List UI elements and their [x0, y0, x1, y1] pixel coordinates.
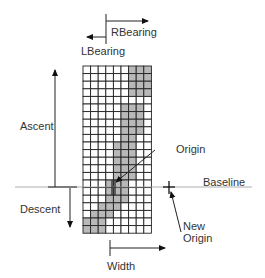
grid-cell-shaded: [113, 150, 121, 158]
grid-cell: [83, 165, 91, 173]
grid-cell: [136, 165, 144, 173]
new-origin-label-line1: New: [183, 220, 205, 232]
grid-cell: [106, 112, 114, 120]
grid-cell: [121, 89, 129, 97]
grid-cell: [144, 104, 152, 112]
grid-cell: [136, 188, 144, 196]
grid-cell: [106, 134, 114, 142]
origin-label: Origin: [176, 143, 205, 155]
grid-cell-shaded: [106, 203, 114, 211]
grid-cell: [113, 134, 121, 142]
grid-cell-shaded: [129, 104, 137, 112]
grid-cell: [144, 119, 152, 127]
ascent-label: Ascent: [20, 120, 54, 132]
grid-cell-shaded: [121, 157, 129, 165]
grid-cell-shaded: [129, 81, 137, 89]
grid-cell-shaded: [121, 112, 129, 120]
grid-cell: [83, 210, 91, 218]
grid-cell: [136, 180, 144, 188]
grid-cell-shaded: [121, 180, 129, 188]
rbearing-label: RBearing: [111, 26, 157, 38]
grid-cell: [106, 81, 114, 89]
grid-cell-shaded: [98, 218, 106, 226]
grid-cell: [83, 172, 91, 180]
grid-cell: [129, 218, 137, 226]
grid-cell-shaded: [91, 210, 99, 218]
grid-cell: [144, 180, 152, 188]
grid-cell: [98, 172, 106, 180]
grid-cell: [98, 89, 106, 97]
grid-cell: [91, 127, 99, 135]
new-origin-label-line2: Origin: [183, 232, 212, 244]
grid-cell: [98, 74, 106, 82]
grid-cell-shaded: [121, 195, 129, 203]
grid-cell-shaded: [113, 157, 121, 165]
grid-cell: [83, 74, 91, 82]
grid-cell: [106, 165, 114, 173]
grid-cell-shaded: [136, 112, 144, 120]
grid-cell: [98, 195, 106, 203]
descent-label: Descent: [20, 203, 60, 215]
grid-cell: [136, 157, 144, 165]
grid-cell: [144, 226, 152, 234]
grid-cell-shaded: [121, 134, 129, 142]
grid-cell: [113, 218, 121, 226]
grid-cell: [136, 195, 144, 203]
grid-cell: [91, 81, 99, 89]
grid-cell: [91, 96, 99, 104]
grid-cell: [91, 180, 99, 188]
grid-cell-shaded: [98, 203, 106, 211]
grid-cell: [83, 119, 91, 127]
grid-cell: [91, 195, 99, 203]
grid-cell: [91, 165, 99, 173]
grid-cell-shaded: [136, 66, 144, 74]
grid-cell-shaded: [136, 119, 144, 127]
grid-cell: [113, 112, 121, 120]
grid-cell: [136, 150, 144, 158]
grid-cell: [83, 112, 91, 120]
grid-cell: [106, 172, 114, 180]
grid-cell: [98, 119, 106, 127]
grid-cell-shaded: [129, 119, 137, 127]
grid-cell: [113, 127, 121, 135]
grid-cell: [113, 96, 121, 104]
grid-cell: [83, 142, 91, 150]
grid-cell: [91, 74, 99, 82]
grid-cell: [113, 81, 121, 89]
grid-cell: [83, 157, 91, 165]
grid-cell: [113, 210, 121, 218]
grid-cell: [136, 142, 144, 150]
grid-cell: [113, 119, 121, 127]
grid-cell-shaded: [136, 74, 144, 82]
grid-cell: [106, 96, 114, 104]
grid-cell: [113, 66, 121, 74]
grid-cell-shaded: [144, 89, 152, 97]
grid-cell-shaded: [113, 195, 121, 203]
grid-cell: [91, 172, 99, 180]
grid-cell: [129, 195, 137, 203]
grid-cell-shaded: [136, 104, 144, 112]
grid-cell-shaded: [129, 157, 137, 165]
grid-cell-shaded: [144, 81, 152, 89]
grid-cell: [91, 104, 99, 112]
grid-cell: [136, 134, 144, 142]
grid-cell: [144, 127, 152, 135]
grid-cell: [83, 127, 91, 135]
grid-cell: [91, 119, 99, 127]
grid-cell: [106, 226, 114, 234]
grid-cell: [91, 203, 99, 211]
grid-cell-shaded: [121, 119, 129, 127]
grid-cell: [121, 210, 129, 218]
grid-cell: [144, 210, 152, 218]
grid-cell: [98, 180, 106, 188]
grid-cell-shaded: [121, 172, 129, 180]
grid-cell-shaded: [129, 150, 137, 158]
grid-cell-shaded: [129, 89, 137, 97]
grid-cell: [83, 150, 91, 158]
grid-cell: [98, 112, 106, 120]
grid-cell: [144, 134, 152, 142]
grid-cell: [144, 165, 152, 173]
grid-cell: [129, 188, 137, 196]
grid-cell: [121, 74, 129, 82]
grid-cell: [91, 142, 99, 150]
